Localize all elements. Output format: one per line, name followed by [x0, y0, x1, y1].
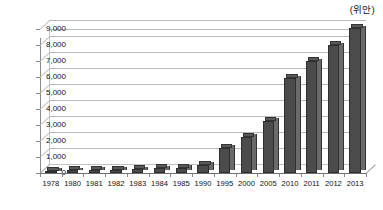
bar-side-face	[230, 145, 235, 170]
bar-top-face	[199, 161, 210, 165]
bar	[67, 166, 78, 173]
bar	[284, 74, 295, 173]
x-axis-label: 2013	[344, 180, 366, 188]
bar-side-face	[274, 118, 279, 170]
y-axis-label: 4,000	[32, 105, 66, 113]
x-axis-label: 1990	[192, 180, 214, 188]
y-axis-label: 9,000	[32, 25, 66, 33]
bar	[154, 164, 165, 173]
x-axis-label: 1980	[62, 180, 84, 188]
bar-top-face	[91, 166, 102, 170]
x-axis-label: 1982	[105, 180, 127, 188]
x-axis-label: 1984	[149, 180, 171, 188]
bar-top-face	[330, 41, 341, 45]
bar-top-face	[243, 133, 254, 137]
bar	[89, 166, 100, 173]
bar-front-face	[306, 61, 317, 173]
gridline	[49, 36, 366, 37]
x-axis-label: 2005	[257, 180, 279, 188]
x-axis-label: 1995	[214, 180, 236, 188]
x-axis-label: 1981	[83, 180, 105, 188]
bar-front-face	[263, 121, 274, 173]
x-axis-label: 1985	[170, 180, 192, 188]
x-axis-label: 1978	[40, 180, 62, 188]
y-axis-label: 2,000	[32, 137, 66, 145]
y-axis-label: 7,000	[32, 57, 66, 65]
bar-side-face	[252, 134, 257, 170]
bar-top-face	[112, 166, 123, 170]
y-axis-label: 1,000	[32, 153, 66, 161]
bar-chart: (위안) 01,0002,0003,0004,0005,0006,0007,00…	[0, 0, 383, 210]
plot-area: 01,0002,0003,0004,0005,0006,0007,0008,00…	[0, 0, 383, 210]
y-axis-label: 8,000	[32, 41, 66, 49]
x-axis-label: 2012	[323, 180, 345, 188]
bar	[176, 164, 187, 173]
bar-front-face	[241, 137, 252, 173]
bar-top-face	[351, 24, 362, 28]
bar	[110, 166, 121, 173]
plot-top-edge	[49, 29, 366, 30]
x-axis-baseline	[40, 173, 366, 174]
x-axis-label: 2010	[279, 180, 301, 188]
bar-top-face	[221, 144, 232, 148]
y-axis-label: 5,000	[32, 89, 66, 97]
bar-side-face	[361, 26, 366, 171]
bar	[263, 117, 274, 173]
x-axis-label: 2000	[236, 180, 258, 188]
y-axis-label: 6,000	[32, 73, 66, 81]
x-axis-label: 1983	[127, 180, 149, 188]
bar-front-face	[349, 28, 360, 173]
bar	[219, 144, 230, 173]
y-axis-label: 3,000	[32, 121, 66, 129]
bar-side-face	[317, 59, 322, 171]
bar-front-face	[197, 165, 208, 173]
bar-top-face	[47, 167, 58, 171]
bar-front-face	[284, 78, 295, 173]
bar	[132, 165, 143, 173]
bar-side-face	[339, 43, 344, 171]
bar	[197, 161, 208, 173]
bar	[241, 133, 252, 173]
bar-top-face	[265, 117, 276, 121]
bar	[328, 41, 339, 173]
x-axis-label: 2011	[301, 180, 323, 188]
bar	[349, 24, 360, 173]
bar-front-face	[328, 45, 339, 173]
bar-side-face	[296, 76, 301, 171]
bar-top-face	[156, 164, 167, 168]
bar-front-face	[219, 148, 230, 173]
bar-top-face	[134, 165, 145, 169]
floor-right-slant	[366, 164, 376, 174]
bar	[306, 57, 317, 173]
x-tick-mark	[366, 173, 367, 177]
gridline	[49, 20, 366, 21]
bar-top-face	[308, 57, 319, 61]
gridline	[49, 52, 366, 53]
bar-top-face	[178, 164, 189, 168]
bar-top-face	[69, 166, 80, 170]
bar-top-face	[286, 74, 297, 78]
